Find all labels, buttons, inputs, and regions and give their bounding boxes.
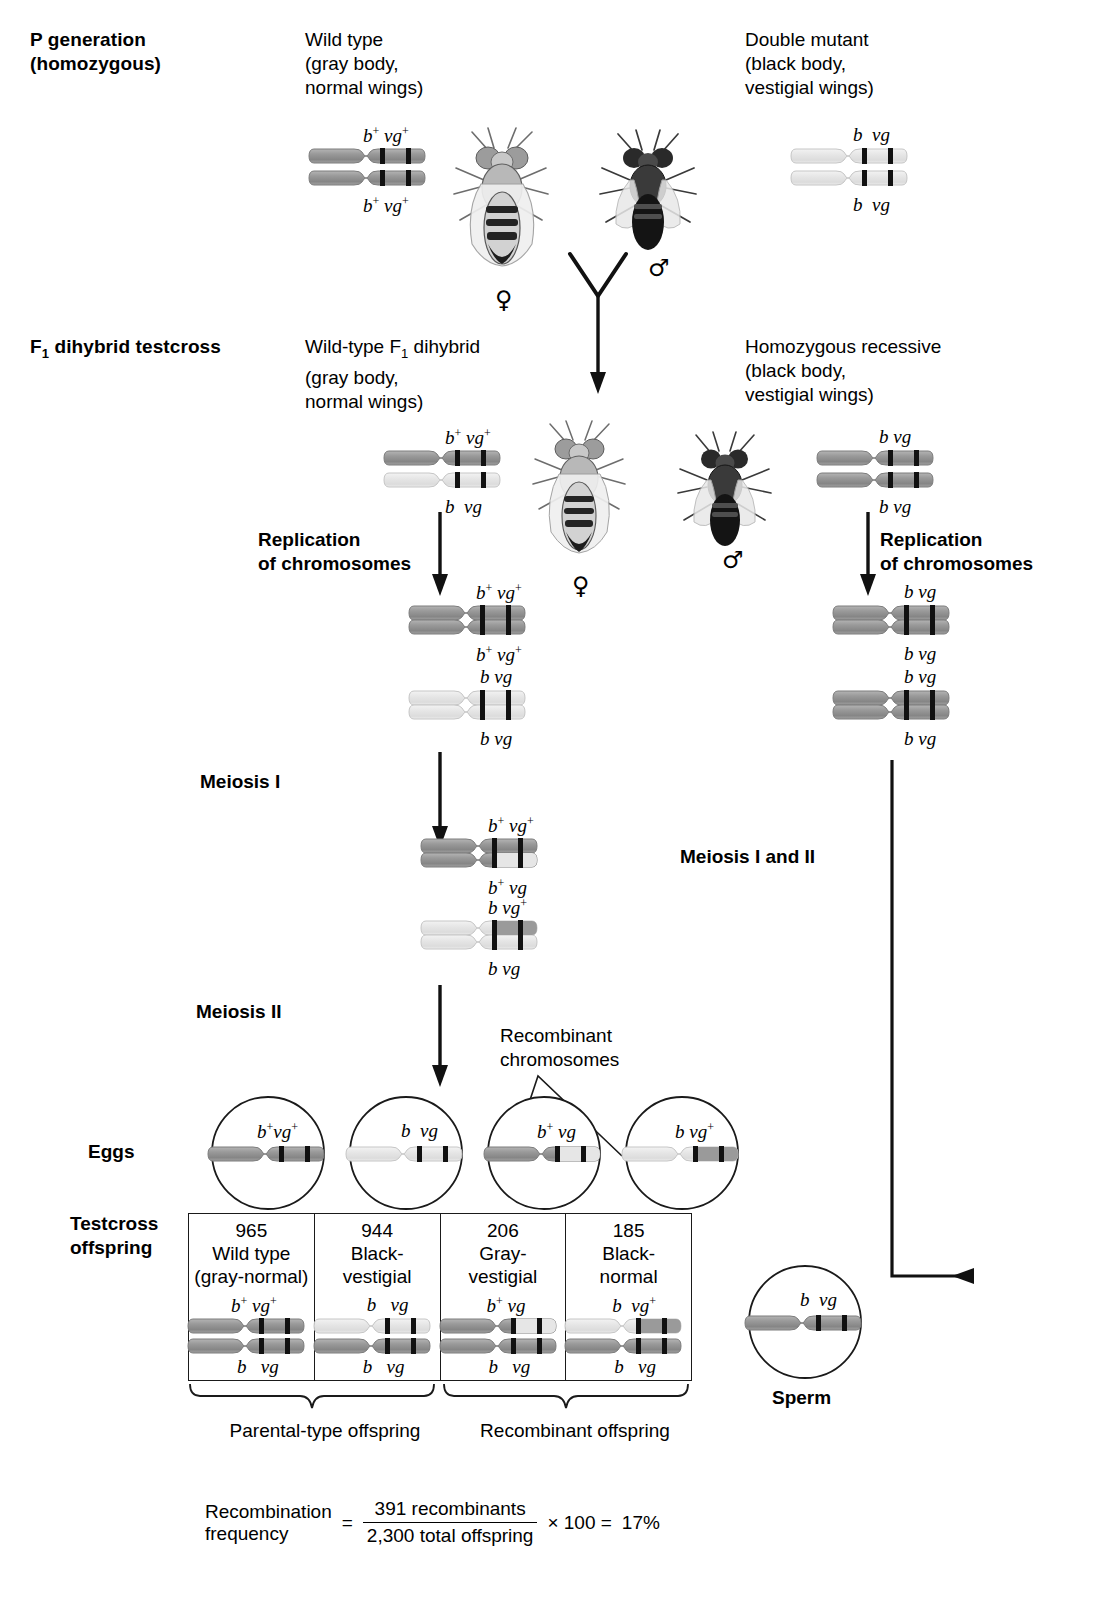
testcross-col4-count: 185 — [566, 1214, 691, 1242]
f1-dihybrid-caption-line3: normal wings) — [305, 390, 480, 414]
recombinant-chromosomes-note: Recombinant chromosomes — [500, 1024, 619, 1072]
f1-recessive-bottom-genotype: b vg — [879, 496, 911, 518]
p-mutant-caption-line2: (black body, — [745, 52, 874, 76]
replicated-left-pair2-bottom-label: b vg — [480, 728, 512, 750]
sperm-label: Sperm — [772, 1386, 831, 1410]
f1-testcross-label-pre: F — [30, 336, 42, 357]
f1-dihybrid-caption-line1: Wild-type F1 dihybrid — [305, 335, 480, 366]
replication-right-line2: of chromosomes — [880, 552, 1033, 576]
meiosis-i-pair2-top-label: b vg+ — [488, 896, 527, 919]
testcross-col4-top-genotype: b vg+ — [612, 1294, 656, 1317]
meiosis-i-pair2-bottom-label: b vg — [488, 958, 520, 980]
p-generation-label-line1: P generation — [30, 28, 161, 52]
egg-cell-3: b+ vg — [481, 1094, 607, 1212]
egg-cell-1: b+vg+ — [205, 1094, 331, 1212]
testcross-col1-bottom-genotype: b vg — [237, 1356, 279, 1378]
meiosis-i-pair1-top-label: b+ vg+ — [488, 814, 534, 837]
f1-dihybrid-chromosome-pair: b+ vg+ b vg — [383, 428, 508, 496]
testcross-col1-name-line2: (gray-normal) — [189, 1265, 314, 1288]
p-mutant-chromosome-pair: b vg b vg — [790, 126, 915, 194]
egg-1-genotype: b+vg+ — [257, 1120, 298, 1143]
p-generation-stage-label: P generation (homozygous) — [30, 28, 161, 76]
egg-cell-4: b vg+ — [619, 1094, 745, 1212]
testcross-col3-name-line1: Gray- — [441, 1242, 566, 1265]
replication-right-line1: Replication — [880, 528, 1033, 552]
testcross-col4-bottom-genotype: b vg — [614, 1356, 656, 1378]
p-wildtype-caption-line1: Wild type — [305, 28, 423, 52]
parental-offspring-brace-label: Parental-type offspring — [202, 1420, 448, 1442]
p-wildtype-caption-line2: (gray body, — [305, 52, 423, 76]
fly-recessive-male-image — [675, 430, 781, 562]
replication-arrow-right — [856, 512, 880, 596]
testcross-col2-name-line1: Black- — [315, 1242, 440, 1265]
testcross-col3-name-line2: vestigial — [441, 1265, 566, 1288]
fly-f1-female-image — [528, 418, 636, 573]
eggs-label: Eggs — [88, 1140, 134, 1164]
f1-testcross-label-post: dihybrid testcross — [49, 336, 221, 357]
male-symbol-f1: ♂ — [722, 548, 744, 572]
p-wildtype-chromosome-pair: b+ vg+ b+ vg+ — [308, 126, 433, 194]
replicated-right-pair2-top-label: b vg — [904, 666, 936, 688]
offspring-group-braces — [188, 1382, 690, 1422]
p-wildtype-top-genotype: b+ vg+ — [363, 124, 409, 147]
testcross-col3-bottom-genotype: b vg — [489, 1356, 531, 1378]
recombination-fraction: 391 recombinants 2,300 total offspring — [363, 1498, 538, 1547]
p-wildtype-caption-line3: normal wings) — [305, 76, 423, 100]
p-mutant-top-genotype: b vg — [853, 124, 890, 146]
f1-dihybrid-caption-line2: (gray body, — [305, 366, 480, 390]
mating-cross-arrow — [530, 248, 660, 398]
recombination-result: 17% — [622, 1512, 660, 1534]
female-symbol-p-generation: ♀ — [495, 288, 513, 312]
meiosis-i-and-ii-label: Meiosis I and II — [680, 845, 815, 869]
replicated-right-pair2: b vg b vg — [832, 670, 972, 734]
replication-label-left: Replication of chromosomes — [258, 528, 411, 576]
f1-caption-pre: Wild-type F — [305, 336, 401, 357]
testcross-column-4: 185 Black- normal b vg+ b vg — [566, 1214, 691, 1380]
recombination-numerator: 391 recombinants — [363, 1498, 538, 1523]
fly-doublemutant-male-image — [596, 128, 706, 268]
p-wildtype-caption: Wild type (gray body, normal wings) — [305, 28, 423, 100]
f1-recessive-caption-line1: Homozygous recessive — [745, 335, 941, 359]
replicated-right-pair1: b vg b vg — [832, 585, 972, 649]
meiosis-ii-arrow — [428, 985, 452, 1089]
f1-recessive-caption-line2: (black body, — [745, 359, 941, 383]
f1-dihybrid-caption: Wild-type F1 dihybrid (gray body, normal… — [305, 335, 480, 414]
sperm-genotype: b vg — [800, 1289, 837, 1311]
replication-arrow-left — [428, 512, 452, 596]
replicated-left-pair1: b+ vg+ b+ vg+ — [408, 585, 548, 649]
egg-2-genotype: b vg — [401, 1120, 438, 1142]
recombination-label-line1: Recombination — [205, 1501, 332, 1523]
testcross-offspring-table: 965 Wild type (gray-normal) b+ vg+ b vg … — [188, 1213, 692, 1381]
testcross-col1-top-genotype: b+ vg+ — [231, 1294, 277, 1317]
meiosis-i-and-ii-arrow — [880, 760, 990, 1320]
f1-recessive-chromosome-pair: b vg b vg — [816, 428, 941, 496]
testcross-col2-count: 944 — [315, 1214, 440, 1242]
sperm-cell: b vg — [742, 1263, 868, 1381]
testcross-offspring-label: Testcross offspring — [70, 1212, 158, 1260]
f1-recessive-top-genotype: b vg — [879, 426, 911, 448]
female-symbol-f1: ♀ — [572, 574, 590, 598]
meiosis-i-product-pair2: b vg+ b vg — [420, 900, 560, 964]
f1-recessive-caption: Homozygous recessive (black body, vestig… — [745, 335, 941, 407]
testcross-col3-count: 206 — [441, 1214, 566, 1242]
replication-left-line1: Replication — [258, 528, 411, 552]
meiosis-i-label: Meiosis I — [200, 770, 280, 794]
replicated-left-pair1-top-label: b+ vg+ — [476, 581, 522, 604]
replication-left-line2: of chromosomes — [258, 552, 411, 576]
testcross-col3-top-genotype: b+ vg — [487, 1294, 526, 1317]
p-mutant-caption-line1: Double mutant — [745, 28, 874, 52]
f1-dihybrid-top-genotype: b+ vg+ — [445, 426, 491, 449]
testcross-label-line1: Testcross — [70, 1212, 158, 1236]
recombination-times-100: × 100 = — [547, 1512, 611, 1534]
p-mutant-caption-line3: vestigial wings) — [745, 76, 874, 100]
testcross-col2-bottom-genotype: b vg — [363, 1356, 405, 1378]
recombinant-note-line2: chromosomes — [500, 1048, 619, 1072]
replicated-right-pair1-bottom-label: b vg — [904, 643, 936, 665]
replicated-left-pair1-bottom-label: b+ vg+ — [476, 643, 522, 666]
egg-cell-2: b vg — [343, 1094, 469, 1212]
p-generation-label-line2: (homozygous) — [30, 52, 161, 76]
testcross-col4-name-line1: Black- — [566, 1242, 691, 1265]
testcross-col4-name-line2: normal — [566, 1265, 691, 1288]
replicated-right-pair1-top-label: b vg — [904, 581, 936, 603]
recombinant-note-line1: Recombinant — [500, 1024, 619, 1048]
